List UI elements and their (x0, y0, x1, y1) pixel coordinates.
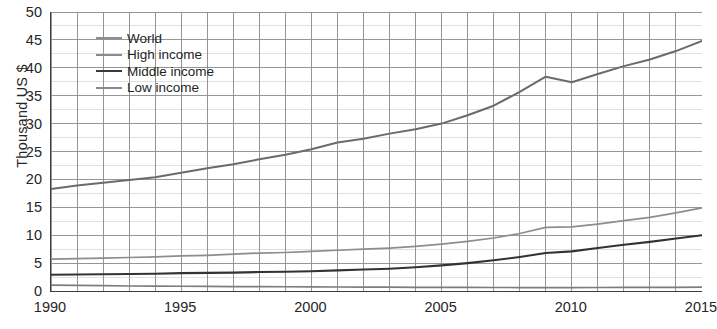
x-tick-label: 2010 (555, 299, 587, 315)
legend-item: Middle income (96, 63, 214, 80)
legend-item: High income (96, 47, 214, 64)
series-line-middle-income (51, 235, 702, 275)
legend-item: Low income (96, 80, 214, 97)
x-tick-label: 1995 (164, 299, 196, 315)
legend-label: Low income (127, 81, 199, 95)
series-line-world (51, 208, 702, 259)
x-tick-label: 2000 (294, 299, 326, 315)
series-line-low-income (51, 285, 702, 287)
legend-swatch-icon (96, 37, 122, 39)
x-tick-label: 1990 (34, 299, 66, 315)
legend-item: World (96, 30, 214, 47)
x-tick-label: 2015 (685, 299, 717, 315)
x-tick-label: 2005 (424, 299, 456, 315)
chart-legend: WorldHigh incomeMiddle incomeLow income (96, 30, 214, 96)
legend-label: Middle income (127, 65, 214, 79)
legend-swatch-icon (96, 54, 122, 56)
legend-label: High income (127, 48, 202, 62)
legend-swatch-icon (96, 70, 122, 72)
legend-swatch-icon (96, 87, 122, 89)
legend-label: World (127, 32, 162, 46)
